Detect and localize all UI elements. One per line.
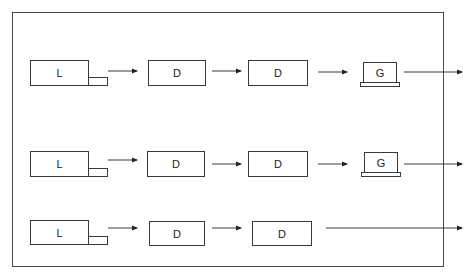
- row2-L-tab: [88, 168, 108, 177]
- node-label: D: [274, 158, 282, 170]
- node-label: D: [172, 158, 180, 170]
- row3-L-tab: [88, 236, 108, 245]
- node-label: L: [56, 67, 62, 79]
- row1-node-L: L: [30, 60, 89, 86]
- row2-node-D2: D: [248, 151, 308, 177]
- row1-node-D2: D: [248, 60, 308, 86]
- node-label: G: [376, 67, 385, 79]
- row1-node-G: G: [363, 62, 397, 83]
- node-label: G: [377, 157, 386, 169]
- row2-node-L: L: [30, 151, 89, 177]
- node-label: D: [173, 228, 181, 240]
- row1-node-D1: D: [148, 60, 206, 86]
- row2-G-base: [361, 172, 401, 177]
- row1-L-tab: [88, 77, 108, 86]
- row3-node-D2: D: [252, 221, 312, 246]
- node-label: D: [274, 67, 282, 79]
- node-label: D: [173, 67, 181, 79]
- row2-node-D1: D: [147, 151, 205, 177]
- node-label: L: [56, 158, 62, 170]
- node-label: L: [56, 227, 62, 239]
- row3-node-D1: D: [149, 221, 205, 246]
- row2-node-G: G: [364, 152, 398, 173]
- row3-node-L: L: [30, 220, 89, 245]
- node-label: D: [278, 228, 286, 240]
- row1-G-base: [360, 82, 400, 87]
